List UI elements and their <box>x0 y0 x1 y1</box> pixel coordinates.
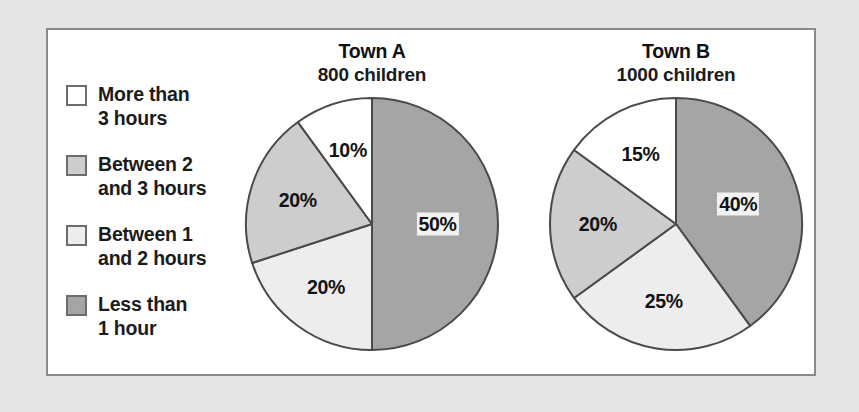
chart-subtitle-town-a: 800 children <box>222 63 522 86</box>
legend-label-more-than-3-hours: More than 3 hours <box>98 82 189 130</box>
pie-slice-label: 20% <box>579 213 617 236</box>
pie-svg-town-a <box>243 95 501 353</box>
legend: More than 3 hours Between 2 and 3 hours … <box>66 82 246 362</box>
pie-slice-label: 50% <box>416 213 458 236</box>
pie-slice-label: 25% <box>645 290 683 313</box>
pie-slice-label: 10% <box>329 138 367 161</box>
legend-swatch-between-2-and-3-hours <box>66 155 87 176</box>
chart-town-a: Town A 800 children 50%20%20%10% <box>222 40 522 353</box>
pie-town-b: 40%25%20%15% <box>547 95 805 353</box>
legend-item-between-1-and-2-hours: Between 1 and 2 hours <box>66 222 246 270</box>
legend-label-less-than-1-hour: Less than 1 hour <box>98 292 187 340</box>
figure-panel: More than 3 hours Between 2 and 3 hours … <box>46 28 816 376</box>
pie-town-a: 50%20%20%10% <box>243 95 501 353</box>
legend-item-more-than-3-hours: More than 3 hours <box>66 82 246 130</box>
chart-title-town-a: Town A <box>222 40 522 63</box>
legend-label-between-2-and-3-hours: Between 2 and 3 hours <box>98 152 206 200</box>
legend-item-between-2-and-3-hours: Between 2 and 3 hours <box>66 152 246 200</box>
chart-title-town-b: Town B <box>526 40 826 63</box>
legend-swatch-between-1-and-2-hours <box>66 225 87 246</box>
pie-slice-label: 40% <box>717 192 759 215</box>
legend-swatch-more-than-3-hours <box>66 85 87 106</box>
pie-slice-label: 15% <box>621 143 659 166</box>
legend-swatch-less-than-1-hour <box>66 295 87 316</box>
legend-item-less-than-1-hour: Less than 1 hour <box>66 292 246 340</box>
pie-slice-label: 20% <box>307 276 345 299</box>
pie-slice-label: 20% <box>279 188 317 211</box>
legend-label-between-1-and-2-hours: Between 1 and 2 hours <box>98 222 206 270</box>
chart-subtitle-town-b: 1000 children <box>526 63 826 86</box>
chart-town-b: Town B 1000 children 40%25%20%15% <box>526 40 826 353</box>
